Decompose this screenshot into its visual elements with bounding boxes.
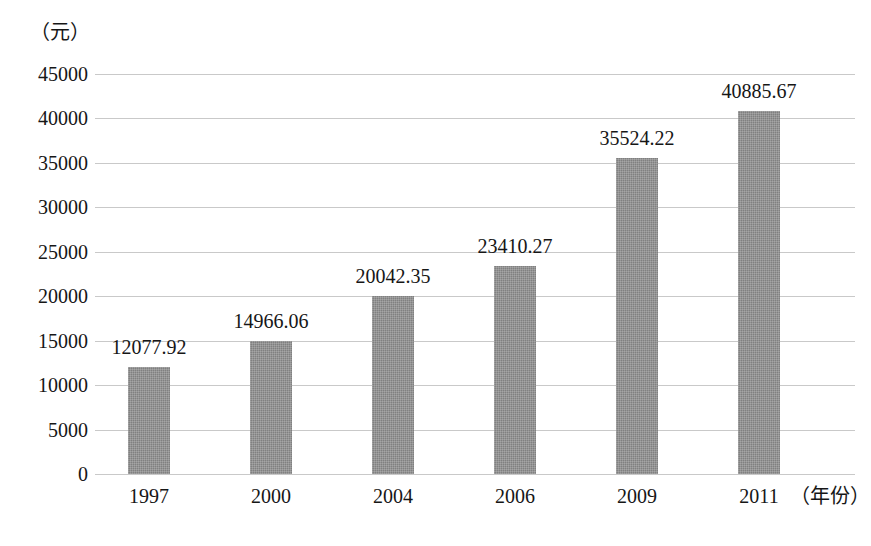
bar-value-label: 35524.22: [600, 128, 675, 148]
y-axis-tick-label: 30000: [2, 197, 88, 217]
bar: [250, 341, 292, 474]
y-axis-tick-label: 20000: [2, 286, 88, 306]
y-axis-tick-labels: 4500040000350003000025000200001500010000…: [0, 74, 88, 474]
y-axis-tick-label: 35000: [2, 153, 88, 173]
y-axis-tick-label: 15000: [2, 331, 88, 351]
bar: [372, 296, 414, 474]
y-axis-tick-label: 25000: [2, 242, 88, 262]
x-axis-tick-label: 2000: [251, 486, 291, 506]
plot-area: [95, 74, 855, 474]
x-axis-title: （年份）: [790, 486, 870, 506]
bar: [128, 367, 170, 474]
x-axis-tick-label: 2004: [373, 486, 413, 506]
bar-value-label: 23410.27: [478, 236, 553, 256]
x-axis-tick-label: 2009: [617, 486, 657, 506]
x-axis-tick-label: 2011: [739, 486, 778, 506]
bar-chart-figure: （元） 450004000035000300002500020000150001…: [0, 0, 871, 546]
x-axis-tick-label: 2006: [495, 486, 535, 506]
bar-value-label: 12077.92: [112, 337, 187, 357]
y-axis-tick-label: 0: [2, 464, 88, 484]
bar: [616, 158, 658, 474]
bar-value-label: 20042.35: [356, 266, 431, 286]
gridline: [95, 74, 855, 75]
y-axis-unit-label: （元）: [30, 16, 90, 45]
x-axis-tick-label: 1997: [129, 486, 169, 506]
bar-value-label: 14966.06: [234, 311, 309, 331]
y-axis-tick-label: 10000: [2, 375, 88, 395]
bar: [494, 266, 536, 474]
y-axis-tick-label: 5000: [2, 420, 88, 440]
y-axis-tick-label: 40000: [2, 108, 88, 128]
y-axis-tick-label: 45000: [2, 64, 88, 84]
bar: [738, 111, 780, 474]
gridline: [95, 474, 855, 475]
bar-value-label: 40885.67: [722, 81, 797, 101]
